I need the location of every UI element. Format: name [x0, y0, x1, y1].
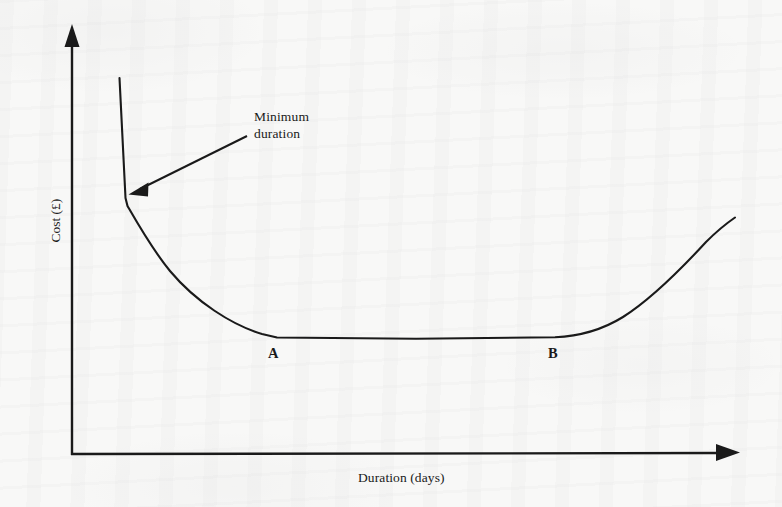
annotation-line-2: duration: [254, 126, 300, 141]
y-axis-arrowhead-icon: [65, 24, 80, 47]
point-a-label: A: [268, 344, 278, 363]
cost-duration-figure: Cost (£) Duration (days) Minimumduration…: [0, 0, 782, 507]
cost-curve: [120, 78, 736, 339]
annotation-line-1: Minimum: [254, 109, 309, 124]
minimum-duration-annotation: Minimumduration: [254, 108, 309, 143]
x-axis-line: [71, 453, 723, 454]
figure-drawing: [0, 0, 782, 507]
annotation-leader-line: [140, 136, 247, 189]
x-axis-arrowhead-icon: [716, 444, 740, 461]
point-b-label: B: [548, 344, 558, 363]
y-axis-label: Cost (£): [47, 171, 64, 271]
x-axis-label: Duration (days): [358, 469, 445, 486]
annotation-arrowhead-icon: [129, 183, 149, 197]
